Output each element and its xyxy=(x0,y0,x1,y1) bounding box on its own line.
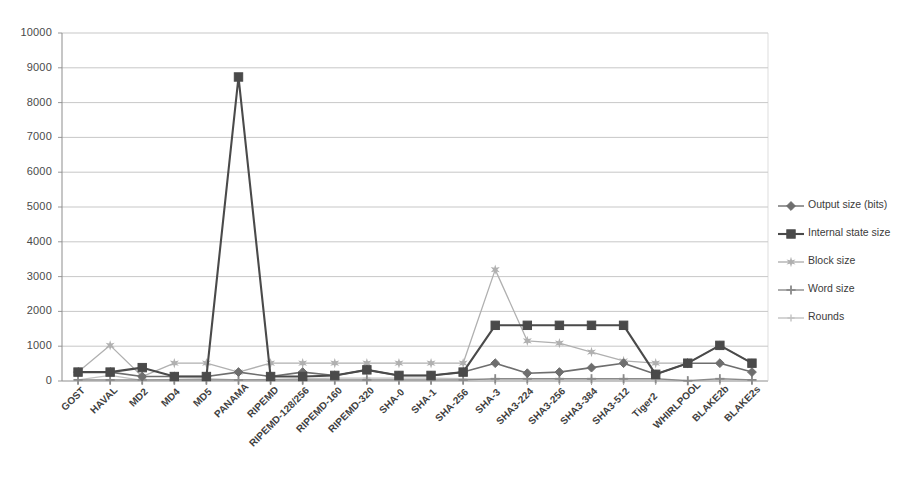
legend-marker-icon xyxy=(778,310,804,322)
legend-item-label: Word size xyxy=(808,282,855,294)
y-axis-tick-label: 6000 xyxy=(4,166,52,177)
y-axis-tick-label: 4000 xyxy=(4,236,52,247)
chart-legend: Output size (bits)Internal state sizeBlo… xyxy=(778,190,916,330)
legend-item[interactable]: Output size (bits) xyxy=(778,190,916,218)
legend-marker-icon xyxy=(778,282,804,294)
y-axis-tick-label: 7000 xyxy=(4,131,52,142)
legend-item-label: Block size xyxy=(808,254,855,266)
y-axis-tick-label: 3000 xyxy=(4,271,52,282)
legend-item-label: Output size (bits) xyxy=(808,198,887,210)
legend-item[interactable]: Block size xyxy=(778,246,916,274)
y-axis-tick-label: 9000 xyxy=(4,62,52,73)
legend-item[interactable]: Rounds xyxy=(778,302,916,330)
series-line xyxy=(74,73,756,381)
y-axis-tick-label: 8000 xyxy=(4,97,52,108)
series-line xyxy=(74,264,757,381)
chart-container: 0100020003000400050006000700080009000100… xyxy=(0,0,916,495)
legend-item-label: Internal state size xyxy=(808,226,890,238)
y-axis-tick-label: 5000 xyxy=(4,201,52,212)
legend-marker-icon xyxy=(778,198,804,210)
legend-item-label: Rounds xyxy=(808,310,844,322)
legend-item[interactable]: Word size xyxy=(778,274,916,302)
y-axis-tick-label: 10000 xyxy=(4,27,52,38)
y-axis-tick-label: 0 xyxy=(4,375,52,386)
y-axis-tick-label: 2000 xyxy=(4,305,52,316)
legend-item[interactable]: Internal state size xyxy=(778,218,916,246)
y-axis-tick-label: 1000 xyxy=(4,340,52,351)
legend-marker-icon xyxy=(778,254,804,266)
legend-marker-icon xyxy=(778,226,804,238)
